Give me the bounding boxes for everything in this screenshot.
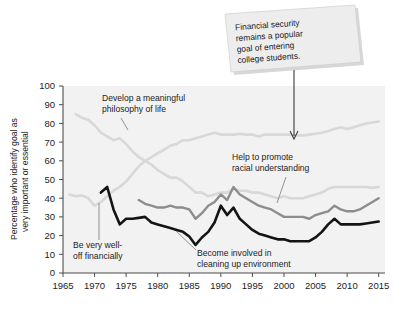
- x-tick-label: 1985: [179, 280, 200, 291]
- chart-container: 0102030405060708090100 19651970197519801…: [0, 0, 394, 313]
- y-tick-label: 10: [44, 249, 55, 260]
- x-tick-label: 2015: [368, 280, 389, 291]
- y-tick-label: 20: [44, 230, 55, 241]
- x-tick-label: 1965: [52, 280, 73, 291]
- y-axis-title-line2: very important or essential: [20, 131, 30, 232]
- y-tick-label: 30: [44, 211, 55, 222]
- x-tick-label: 1970: [84, 280, 105, 291]
- racial-label-line2: racial understanding: [232, 163, 310, 173]
- x-tick-label: 2005: [305, 280, 326, 291]
- racial-label-line1: Help to promote: [232, 152, 293, 162]
- line-chart: 0102030405060708090100 19651970197519801…: [0, 0, 394, 313]
- y-tick-label: 100: [39, 80, 55, 91]
- philosophy-label-line2: philosophy of life: [102, 104, 166, 114]
- y-tick-label: 50: [44, 174, 55, 185]
- financial-label-line1: Be very well-: [73, 240, 122, 250]
- y-tick-label: 40: [44, 193, 55, 204]
- y-tick-label: 0: [50, 267, 55, 278]
- y-tick-label: 90: [44, 99, 55, 110]
- philosophy-label-line1: Develop a meaningful: [102, 93, 185, 103]
- y-tick-label: 80: [44, 118, 55, 129]
- x-tick-label: 2010: [337, 280, 358, 291]
- x-tick-label: 1980: [147, 280, 168, 291]
- financial-label-line2: off financially: [73, 251, 123, 261]
- y-axis-title-line1: Percentage who identify goal as: [9, 118, 19, 240]
- y-tick-label: 60: [44, 155, 55, 166]
- x-tick-label: 1995: [242, 280, 263, 291]
- environment-label-line1: Become involved in: [197, 248, 272, 258]
- x-tick-label: 2000: [273, 280, 294, 291]
- x-tick-label: 1975: [116, 280, 137, 291]
- y-tick-label: 70: [44, 137, 55, 148]
- y-axis-title: Percentage who identify goal as very imp…: [9, 118, 30, 240]
- environment-label-line2: cleaning up environment: [197, 259, 291, 269]
- x-tick-label: 1990: [210, 280, 231, 291]
